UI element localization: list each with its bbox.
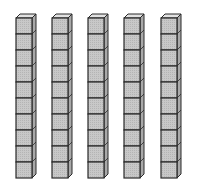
tens-rod <box>52 14 72 178</box>
unit-cube <box>16 130 32 146</box>
unit-cube <box>16 50 32 66</box>
unit-cube <box>52 130 68 146</box>
unit-cube <box>161 162 177 178</box>
unit-cube <box>16 162 32 178</box>
tens-rod <box>88 14 108 178</box>
unit-cube <box>161 114 177 130</box>
unit-cube <box>52 114 68 130</box>
unit-cube <box>88 98 104 114</box>
tens-rod <box>161 14 181 178</box>
unit-cube <box>124 34 140 50</box>
unit-cube <box>16 82 32 98</box>
unit-cube <box>124 50 140 66</box>
unit-cube <box>161 82 177 98</box>
unit-cube <box>124 82 140 98</box>
unit-cube <box>161 146 177 162</box>
unit-cube <box>88 146 104 162</box>
unit-cube <box>88 114 104 130</box>
unit-cube <box>124 66 140 82</box>
unit-cube <box>88 66 104 82</box>
unit-cube <box>161 50 177 66</box>
unit-cube <box>161 66 177 82</box>
unit-cube <box>124 18 140 34</box>
unit-cube <box>52 98 68 114</box>
unit-cube <box>16 34 32 50</box>
tens-rod <box>124 14 144 178</box>
unit-cube <box>52 50 68 66</box>
unit-cube <box>16 66 32 82</box>
unit-cube <box>124 162 140 178</box>
unit-cube <box>16 146 32 162</box>
unit-cube <box>124 146 140 162</box>
unit-cube <box>88 130 104 146</box>
tens-rod <box>16 14 36 178</box>
unit-cube <box>88 82 104 98</box>
unit-cube <box>88 18 104 34</box>
unit-cube <box>161 130 177 146</box>
unit-cube <box>16 98 32 114</box>
unit-cube <box>88 50 104 66</box>
unit-cube <box>52 34 68 50</box>
unit-cube <box>88 162 104 178</box>
unit-cube <box>52 162 68 178</box>
unit-cube <box>161 34 177 50</box>
unit-cube <box>52 82 68 98</box>
unit-cube <box>52 18 68 34</box>
unit-cube <box>16 114 32 130</box>
unit-cube <box>52 66 68 82</box>
unit-cube <box>16 18 32 34</box>
unit-cube <box>88 34 104 50</box>
unit-cube <box>52 146 68 162</box>
unit-cube <box>124 130 140 146</box>
unit-cube <box>124 114 140 130</box>
unit-cube <box>161 98 177 114</box>
base-ten-rods-diagram <box>0 0 197 186</box>
unit-cube <box>161 18 177 34</box>
unit-cube <box>124 98 140 114</box>
